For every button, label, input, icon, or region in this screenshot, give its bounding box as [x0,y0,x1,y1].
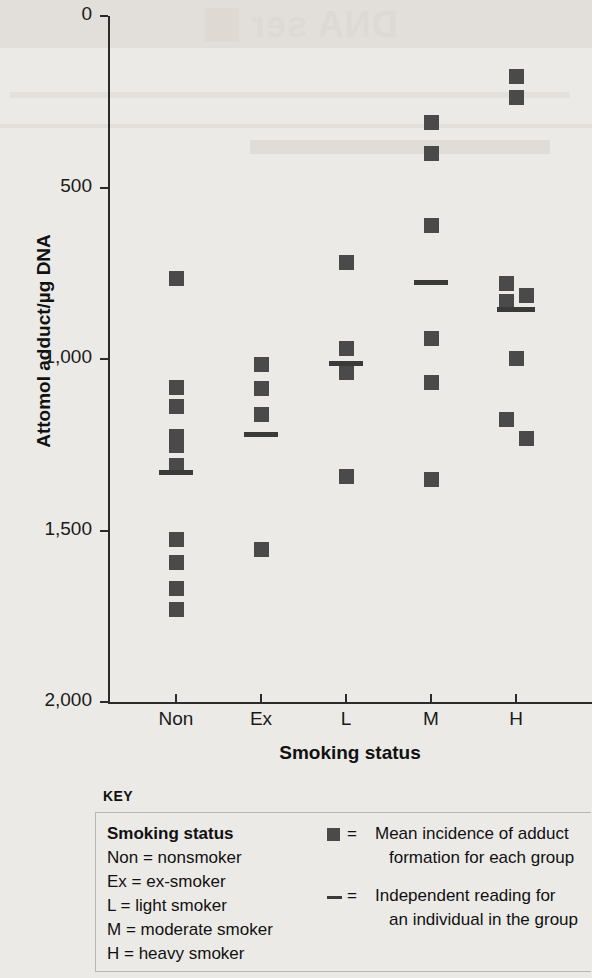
data-point-marker [499,412,514,427]
data-point-marker [424,218,439,233]
data-point-marker [424,146,439,161]
x-tick-mark [175,694,177,702]
data-point-marker [254,407,269,422]
x-tick-label: H [476,708,556,730]
key-item-text: Mean incidence of adductformation for ea… [375,822,589,870]
key-left-item: M = moderate smoker [107,918,327,942]
data-point-marker [424,331,439,346]
square-marker-icon: = [327,826,361,844]
x-tick-label: Non [136,708,216,730]
key-left-column: Smoking status Non = nonsmokerEx = ex-sm… [107,822,327,966]
data-point-marker [499,276,514,291]
data-point-marker [254,357,269,372]
y-tick-label: 500 [60,175,92,197]
data-point-marker [509,351,524,366]
y-tick-label: 2,000 [44,689,92,711]
y-tick-mark [100,701,108,703]
data-point-marker [339,255,354,270]
key-item-text: Independent reading foran individual in … [375,884,589,932]
key-left-item: Ex = ex-smoker [107,870,327,894]
square-marker [327,828,340,841]
dash-marker [327,896,342,899]
mean-line-marker [159,470,193,475]
data-point-marker [339,365,354,380]
key-right-column: =Mean incidence of adductformation for e… [327,822,589,946]
x-tick-mark [430,694,432,702]
y-axis-title: Attomol adduct/µg DNA [33,211,55,471]
mean-line-marker [414,280,448,285]
key-left-items: Non = nonsmokerEx = ex-smokerL = light s… [107,846,327,966]
x-tick-label: M [391,708,471,730]
key-title: KEY [103,788,133,804]
key-right-item: =Mean incidence of adductformation for e… [327,822,589,870]
mean-line-marker [244,432,278,437]
data-point-marker [169,602,184,617]
key-left-item: L = light smoker [107,894,327,918]
key-equals-sign: = [347,822,357,846]
data-point-marker [254,542,269,557]
x-axis-line [108,702,592,704]
key-item-line2: an individual in the group [375,908,589,932]
x-tick-mark [260,694,262,702]
data-point-marker [254,381,269,396]
x-axis-title: Smoking status [108,742,592,764]
key-equals-sign: = [347,884,357,908]
y-tick-mark [100,530,108,532]
data-point-marker [339,341,354,356]
data-point-marker [169,271,184,286]
data-point-marker [519,288,534,303]
key-item-line1: Mean incidence of adduct [375,824,569,843]
data-point-marker [339,469,354,484]
y-tick-mark [100,15,108,17]
mean-line-marker [329,361,363,366]
y-tick-mark [100,358,108,360]
data-point-marker [424,472,439,487]
x-tick-label: L [306,708,386,730]
data-point-marker [424,115,439,130]
mean-line-marker [497,307,535,312]
key-item-line2: formation for each group [375,846,589,870]
key-item-line1: Independent reading for [375,886,556,905]
data-point-marker [169,555,184,570]
x-tick-mark [345,694,347,702]
x-tick-label: Ex [221,708,301,730]
key-right-item: =Independent reading foran individual in… [327,884,589,932]
dash-marker-icon: = [327,888,361,906]
y-tick-mark [100,187,108,189]
y-tick-label: 1,500 [44,518,92,540]
scatter-plot: Attomol adduct/µg DNA Smoking status 2,0… [0,0,592,782]
key-left-item: H = heavy smoker [107,942,327,966]
key-legend: KEY Smoking status Non = nonsmokerEx = e… [95,790,592,978]
data-point-marker [169,399,184,414]
data-point-marker [169,438,184,453]
data-point-marker [509,69,524,84]
data-point-marker [169,581,184,596]
data-point-marker [169,380,184,395]
data-point-marker [424,375,439,390]
y-tick-label: 0 [81,3,92,25]
key-left-heading: Smoking status [107,822,327,846]
data-point-marker [519,431,534,446]
key-left-item: Non = nonsmoker [107,846,327,870]
y-axis-line [108,16,110,704]
x-tick-mark [515,694,517,702]
data-point-marker [169,532,184,547]
y-tick-label: 1,000 [44,346,92,368]
data-point-marker [509,90,524,105]
